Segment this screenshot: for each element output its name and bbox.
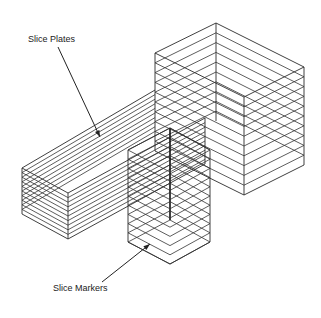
wireframe-figure [0,0,321,318]
diagram-canvas: Slice Plates Slice Markers [0,0,321,318]
slice-markers-label: Slice Markers [53,283,108,293]
slice-plate [155,33,304,107]
tall-box-top [155,23,304,97]
slice-plate [155,43,304,117]
slice-plates-label: Slice Plates [28,34,75,44]
slice-plates-arrow [58,47,100,137]
slice-markers-arrow [102,244,150,282]
